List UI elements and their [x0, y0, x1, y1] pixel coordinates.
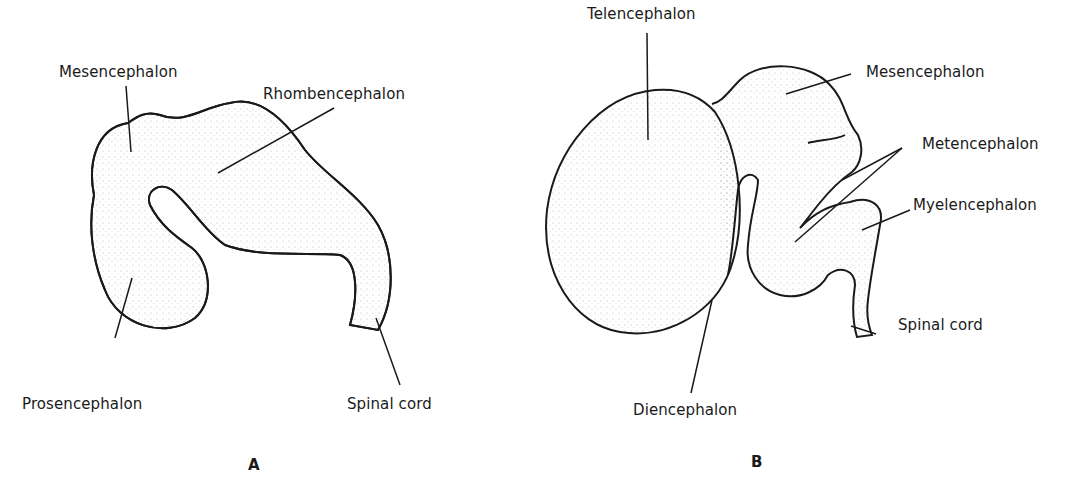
label-a-mesencephalon: Mesencephalon	[59, 63, 178, 81]
label-b-myelencephalon: Myelencephalon	[913, 196, 1037, 214]
label-b-metencephalon: Metencephalon	[922, 135, 1039, 153]
label-a-spinal-cord: Spinal cord	[347, 395, 432, 413]
panel-label-a: A	[248, 456, 260, 474]
label-a-prosencephalon: Prosencephalon	[22, 395, 142, 413]
label-b-diencephalon: Diencephalon	[633, 401, 737, 419]
label-b-mesencephalon: Mesencephalon	[866, 63, 985, 81]
label-b-telencephalon: Telencephalon	[587, 5, 696, 23]
panel-a-brain-shape	[91, 101, 390, 330]
label-a-rhombencephalon: Rhombencephalon	[263, 85, 405, 103]
panel-label-b: B	[751, 453, 762, 471]
label-b-spinal-cord: Spinal cord	[898, 316, 983, 334]
panel-b-brain-shape	[546, 66, 881, 337]
